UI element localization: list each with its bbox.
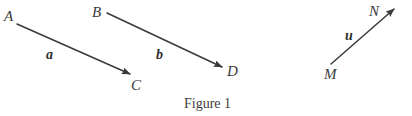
vector-label-a: a bbox=[46, 48, 53, 62]
vector-label-u: u bbox=[345, 29, 353, 43]
point-label-b: B bbox=[92, 5, 101, 20]
figure-diagram: A C B D M N a b u Figure 1 bbox=[0, 0, 412, 116]
point-label-m: M bbox=[324, 67, 337, 82]
point-label-d: D bbox=[227, 64, 238, 79]
point-label-c: C bbox=[131, 78, 141, 93]
vector-label-b: b bbox=[156, 48, 163, 62]
point-label-a: A bbox=[4, 9, 13, 24]
vector-a-line bbox=[17, 24, 130, 74]
figure-caption: Figure 1 bbox=[184, 97, 231, 111]
point-label-n: N bbox=[369, 4, 379, 19]
vector-u-line bbox=[331, 9, 394, 64]
vector-b-line bbox=[107, 13, 222, 67]
